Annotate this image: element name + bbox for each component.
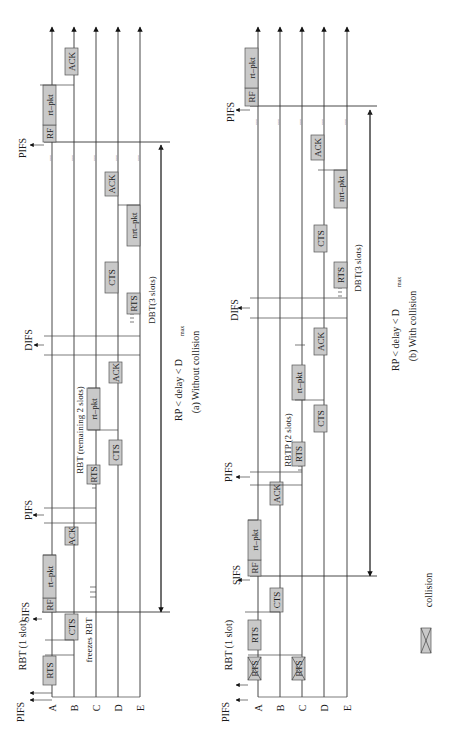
ack-frame-d: ACK (314, 328, 327, 355)
dbt-label: DBT(3 slots) (353, 244, 363, 291)
ellipsis: ... (316, 119, 325, 125)
ack-frame-d3: ACK (311, 135, 324, 160)
collision-box-icon (421, 628, 431, 653)
delay-range-label: RP < delay < D (173, 359, 184, 421)
frame-label: RTS (45, 663, 55, 679)
ellipsis: ... (272, 119, 281, 125)
ack-frame-b: ACK (270, 482, 283, 505)
frame-label: CTS (316, 410, 326, 427)
frame-label: RTS (336, 267, 346, 283)
ellipsis: ... (339, 119, 348, 125)
frame-label: ACK (67, 526, 77, 546)
ack-frame-d3: ACK (105, 172, 118, 196)
rts-frame-a: RTS (43, 656, 56, 685)
station-label-B: B (275, 704, 286, 711)
rts-frame-c: RTS (87, 465, 100, 484)
sifs-label: SIFS (20, 602, 31, 622)
cts-frame-d: CTS (109, 440, 122, 465)
panel-without-collision: ABCDEPIFSRBT (1 slot)RTSCTSfreezes RBTSI… (15, 27, 202, 722)
frame-label: CTS (107, 269, 117, 286)
rt-pkt-frame-c: rt–pkt (87, 388, 100, 430)
frame-label: ACK (111, 363, 121, 383)
rt-pkt-frame-c: rt–pkt (292, 365, 305, 400)
panel-b-caption: (b) With collision (407, 291, 419, 362)
rf-frame-a: RF (248, 560, 261, 576)
collision-legend-label: collision (423, 573, 434, 607)
freezes-rbt-label: freezes RBT (84, 617, 94, 663)
rbt-1-slot-label: RBT (1 slot) (223, 620, 235, 670)
frame-label: nrt–pkt (129, 212, 139, 238)
station-label-E: E (342, 705, 353, 711)
cts-frame-d2: CTS (314, 225, 327, 252)
panel-with-collision: ABCDEPIFSRBT (1 slot)RTSRTSRTSCTSSIFSRFr… (220, 27, 419, 722)
frame-label: RTS (129, 296, 139, 312)
nrt-pkt-frame-e: nrt–pkt (334, 170, 347, 208)
rf-frame-a2: RF (43, 125, 56, 142)
ellipsis: ... (88, 155, 97, 161)
frame-label: RTS (250, 627, 260, 643)
ack-frame-d: ACK (109, 362, 122, 383)
ellipsis: ... (250, 119, 259, 125)
frame-label: CTS (111, 444, 121, 461)
ellipsis: ... (132, 155, 141, 161)
rt-pkt-frame-a: rt–pkt (43, 555, 56, 598)
station-label-E: E (135, 705, 146, 711)
frame-label: RF (247, 91, 257, 102)
rf-frame-a: RF (43, 598, 56, 612)
rbt-remaining-label: RBT (remaining 2 slots) (75, 386, 85, 474)
ack-frame-b2: ACK (65, 48, 78, 75)
rf-frame-a2: RF (245, 88, 258, 106)
frame-label: RF (45, 128, 55, 139)
cts-frame-d2: CTS (105, 262, 118, 293)
frame-label: ACK (67, 52, 77, 72)
rbtp-label: RBTP (2 slots) (283, 413, 293, 467)
station-label-A: A (253, 704, 264, 712)
cts-frame-d: CTS (314, 405, 327, 432)
ellipsis: ... (66, 155, 75, 161)
frame-label: RTS (89, 467, 99, 483)
delay-range-label: RP < delay < D (390, 309, 401, 371)
rt-pkt-frame-a: rt–pkt (248, 520, 261, 560)
frame-label: nrt–pkt (336, 176, 346, 202)
nrt-pkt-frame-e: nrt–pkt (127, 205, 140, 246)
panel-a-caption: (a) Without collision (190, 331, 202, 414)
station-label-C: C (297, 704, 308, 711)
frame-label: CTS (272, 592, 282, 609)
cts-frame-b: CTS (65, 614, 78, 640)
mac-timing-diagram: ABCDEPIFSRBT (1 slot)RTSCTSfreezes RBTSI… (0, 0, 449, 732)
rts-frame-a: RTS (248, 620, 261, 650)
frame-label: ACK (313, 138, 323, 158)
pifs-label: PIFS (220, 702, 231, 722)
frame-label: rt–pkt (294, 371, 304, 393)
pifs-end-label: PIFS (225, 102, 236, 122)
dmax-subscript: max (396, 277, 402, 287)
frame-label: ACK (107, 174, 117, 194)
ellipsis: ... (294, 119, 303, 125)
station-label-B: B (69, 704, 80, 711)
rts-frame-c: RTS (292, 442, 305, 466)
rts-frame-e: RTS (127, 293, 140, 314)
station-label-C: C (91, 704, 102, 711)
rbt-1-slot-label: RBT (1 slot) (17, 620, 29, 670)
frame-label: RF (45, 599, 55, 610)
rts-frame-a-collided: RTS (248, 657, 261, 680)
frame-label: CTS (316, 230, 326, 247)
rts-frame-e: RTS (334, 262, 347, 288)
ellipsis: ... (110, 155, 119, 161)
frame-label: rt–pkt (45, 94, 55, 116)
station-label-A: A (47, 704, 58, 712)
frame-label: RTS (294, 446, 304, 462)
ellipsis: ... (44, 155, 53, 161)
frame-label: rt–pkt (250, 529, 260, 551)
frame-label: rt–pkt (247, 57, 257, 79)
pifs-mid-label: PIFS (223, 462, 234, 482)
station-label-D: D (319, 704, 330, 711)
rt-pkt-frame-a2: rt–pkt (245, 48, 258, 88)
frame-label: rt–pkt (89, 398, 99, 420)
frame-label: RF (250, 562, 260, 573)
rts-frame-c-collided: RTS (292, 657, 305, 680)
frame-label: rt–pkt (45, 565, 55, 587)
dbt-label: DBT(3 slots) (147, 276, 157, 323)
frame-label: ACK (316, 332, 326, 352)
pifs-mid-label: PIFS (23, 500, 34, 520)
